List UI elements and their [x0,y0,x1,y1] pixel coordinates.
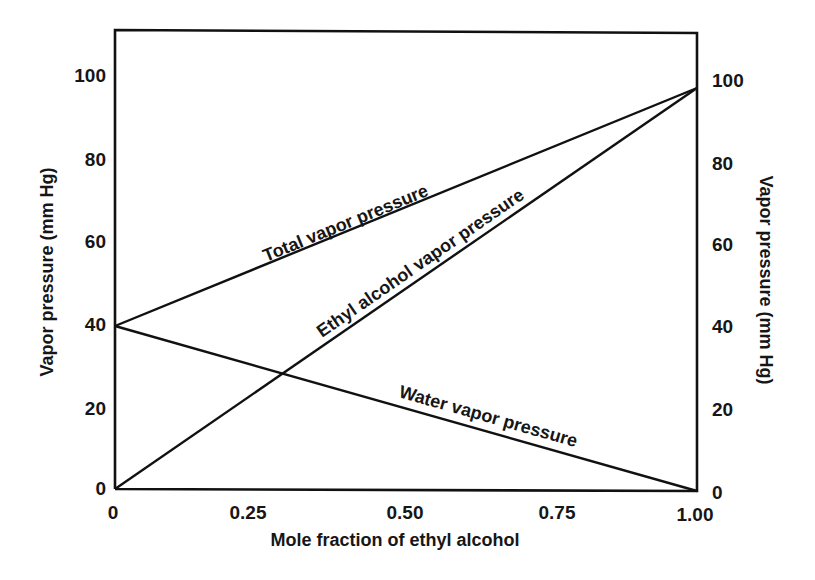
x-tick-0: 0 [108,502,119,523]
y-tick-left-40: 40 [85,314,106,335]
x-tick-0.50: 0.50 [387,502,424,523]
water-vapor-pressure-line [115,326,697,491]
y-tick-left-60: 60 [85,231,106,252]
y-tick-left-80: 80 [85,149,106,170]
y-tick-left-100: 100 [74,65,106,86]
ethyl-alcohol-vapor-pressure-label: Ethyl alcohol vapor pressure [313,185,528,342]
y-tick-right-60: 60 [712,234,733,255]
y-tick-right-80: 80 [712,153,733,174]
x-axis-label: Mole fraction of ethyl alcohol [270,530,519,550]
vapor-pressure-chart: Total vapor pressure Ethyl alcohol vapor… [0,0,815,580]
y-tick-left-20: 20 [85,398,106,419]
y-tick-right-100: 100 [712,70,744,91]
ethyl-alcohol-vapor-pressure-line [115,88,697,489]
y-tick-right-40: 40 [712,316,733,337]
total-vapor-pressure-label: Total vapor pressure [260,180,431,265]
x-tick-1.00: 1.00 [677,504,714,525]
y-axis-label-left: Vapor pressure (mm Hg) [37,167,57,376]
y-axis-label-right: Vapor pressure (mm Hg) [756,175,776,384]
y-tick-right-0: 0 [712,482,723,503]
x-tick-0.75: 0.75 [539,502,576,523]
x-tick-0.25: 0.25 [230,502,267,523]
y-tick-left-0: 0 [95,478,106,499]
y-tick-right-20: 20 [712,399,733,420]
water-vapor-pressure-label: Water vapor pressure [397,382,580,451]
